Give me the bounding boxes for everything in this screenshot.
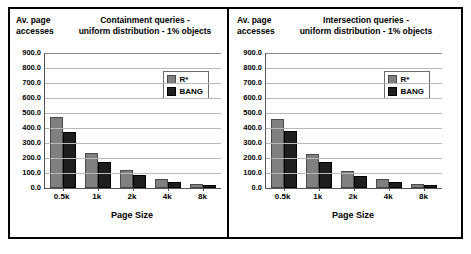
legend-label: BANG [179,87,203,96]
gridline [45,113,221,114]
bar-bang-0.5k [284,131,297,188]
x-tick-mark [168,188,169,191]
panel-header-intersection: Av. page accesses Intersection queries -… [231,15,450,49]
y-tick-label: 700.0 [243,79,262,87]
bar-bang-1k [98,162,111,188]
x-tick-label: 1k [79,192,114,201]
y-tick-label: 300.0 [22,139,41,147]
bar-rstar-0.5k [271,119,284,188]
gridline [266,173,442,174]
bar-rstar-4k [155,179,168,188]
y-tick-label: 0.0 [31,184,41,192]
bar-group [301,53,336,188]
gridline [266,128,442,129]
x-tick-mark [389,188,390,191]
y-tick-label: 700.0 [22,79,41,87]
bar-bang-0.5k [63,132,76,188]
y-tick-label: 100.0 [22,169,41,177]
y-tick-label: 300.0 [243,139,262,147]
chart-title-line1: Intersection queries - [283,15,449,26]
gridline [45,98,221,99]
bar-group [336,53,371,188]
gridline [45,53,221,54]
x-tick-mark [63,188,64,191]
y-tick-label: 900.0 [22,49,41,57]
x-tick-label: 0.5k [265,192,300,201]
x-tick-label: 8k [185,192,220,201]
y-tick-label: 400.0 [243,124,262,132]
bar-bang-4k [389,182,402,188]
y-tick-label: 200.0 [22,154,41,162]
x-tick-label: 2k [335,192,370,201]
chart-panel-intersection: Av. page accesses Intersection queries -… [231,7,450,239]
gridline [266,143,442,144]
x-tick-mark [354,188,355,191]
bar-rstar-4k [376,179,389,188]
plot-wrap-intersection: 900.0800.0700.0600.0500.0400.0300.0200.0… [231,53,450,203]
legend-intersection: R*BANG [384,71,430,99]
y-tick-label: 500.0 [243,109,262,117]
gridline [266,113,442,114]
y-tick-label: 500.0 [22,109,41,117]
y-axis-tick-labels-containment: 900.0800.0700.0600.0500.0400.0300.0200.0… [10,53,43,195]
legend-swatch-icon [167,87,176,96]
x-tick-mark [424,188,425,191]
y-tick-label: 100.0 [243,169,262,177]
gridline [266,98,442,99]
x-axis-title-intersection: Page Size [265,210,441,220]
plot-area-intersection: R*BANG [265,53,442,189]
gridline [45,173,221,174]
x-axis-tick-labels-containment: 0.5k1k2k4k8k [44,192,220,201]
bar-bang-8k [203,185,216,188]
bar-group [80,53,115,188]
y-tick-label: 600.0 [22,94,41,102]
bar-group [45,53,80,188]
y-tick-label: 600.0 [243,94,262,102]
x-tick-label: 0.5k [44,192,79,201]
gridline [45,68,221,69]
figure-root: Av. page accesses Containment queries - … [0,0,471,254]
x-axis-title-containment: Page Size [44,210,220,220]
gridline [266,53,442,54]
gridline [266,83,442,84]
gridline [266,158,442,159]
bar-rstar-8k [411,184,424,188]
gridline [45,83,221,84]
y-tick-label: 400.0 [22,124,41,132]
gridline [45,143,221,144]
x-tick-label: 2k [114,192,149,201]
bar-bang-8k [424,185,437,188]
bar-group [115,53,150,188]
plot-wrap-containment: 900.0800.0700.0600.0500.0400.0300.0200.0… [10,53,229,203]
chart-panel-containment: Av. page accesses Containment queries - … [10,7,229,239]
y-tick-label: 0.0 [252,184,262,192]
bar-bang-2k [354,176,367,188]
bar-bang-2k [133,175,146,188]
y-tick-label: 800.0 [22,64,41,72]
x-axis-tick-labels-intersection: 0.5k1k2k4k8k [265,192,441,201]
panel-header-containment: Av. page accesses Containment queries - … [10,15,229,49]
y-axis-tick-labels-intersection: 900.0800.0700.0600.0500.0400.0300.0200.0… [231,53,264,195]
x-tick-mark [133,188,134,191]
gridline [45,158,221,159]
chart-title-intersection: Intersection queries - uniform distribut… [283,15,449,37]
x-tick-mark [284,188,285,191]
y-tick-label: 900.0 [243,49,262,57]
x-tick-label: 1k [300,192,335,201]
x-tick-mark [319,188,320,191]
chart-title-line2: uniform distribution - 1% objects [283,26,449,37]
y-tick-label: 200.0 [243,154,262,162]
chart-title-line2: uniform distribution - 1% objects [62,26,228,37]
bar-bang-4k [168,182,181,188]
legend-label: BANG [400,87,424,96]
plot-area-containment: R*BANG [44,53,221,189]
x-tick-mark [98,188,99,191]
x-tick-label: 8k [406,192,441,201]
bar-rstar-8k [190,184,203,188]
legend-swatch-icon [388,87,397,96]
legend-entry: BANG [388,86,424,96]
legend-entry: BANG [167,86,203,96]
legend-containment: R*BANG [163,71,209,99]
chart-title-line1: Containment queries - [62,15,228,26]
x-tick-mark [203,188,204,191]
